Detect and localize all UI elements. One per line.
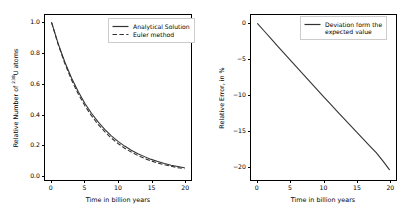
y-tick-mark	[248, 95, 250, 96]
x-axis-label-left: Time in billion years	[86, 196, 150, 204]
figure-canvas: 0.00.20.40.60.81.0 05101520 Time in bill…	[0, 0, 411, 214]
legend-item-deviation: Deviation form the expected value	[304, 21, 382, 36]
x-tick-mark	[185, 181, 186, 183]
legend-item-analytical-solution: Analytical Solution	[112, 23, 190, 31]
legend-right: Deviation form the expected value	[300, 16, 387, 40]
y-tick-label: 0.2	[18, 142, 40, 148]
y-tick-mark	[248, 59, 250, 60]
y-tick-mark	[248, 167, 250, 168]
x-tick-mark	[290, 181, 291, 183]
y-tick-mark	[42, 53, 44, 54]
isotope-mass-number: 238	[11, 75, 16, 83]
y-tick-mark	[248, 131, 250, 132]
y-tick-label: 0	[224, 20, 246, 26]
legend-label-deviation: Deviation form the expected value	[325, 21, 382, 36]
panel-relative-error: 0−5−10−15−20 05101520 Time in billion ye…	[205, 0, 410, 214]
legend-label-analytical-solution: Analytical Solution	[133, 23, 190, 31]
legend-swatch-solid-icon	[304, 21, 321, 28]
x-tick-mark	[152, 181, 153, 183]
x-tick-label: 15	[353, 185, 361, 191]
y-tick-label: 0.8	[18, 50, 40, 56]
y-tick-label: −10	[224, 92, 246, 98]
x-tick-mark	[357, 181, 358, 183]
y-axis-label-right: Relative Error, in %	[218, 67, 226, 128]
y-tick-label: 1.0	[18, 19, 40, 25]
x-tick-mark	[51, 181, 52, 183]
x-axis-label-right: Time in billion years	[291, 196, 355, 204]
y-tick-mark	[42, 145, 44, 146]
x-tick-mark	[324, 181, 325, 183]
legend-swatch-solid-icon	[112, 23, 129, 30]
x-tick-label: 20	[181, 185, 189, 191]
y-tick-mark	[42, 176, 44, 177]
x-tick-label: 10	[114, 185, 122, 191]
legend-left: Analytical Solution Euler method	[108, 18, 195, 43]
x-tick-mark	[390, 181, 391, 183]
x-tick-label: 10	[320, 185, 328, 191]
legend-item-euler-method: Euler method	[112, 31, 190, 39]
panel-decay-curves: 0.00.20.40.60.81.0 05101520 Time in bill…	[0, 0, 205, 214]
y-tick-mark	[42, 22, 44, 23]
y-tick-mark	[42, 84, 44, 85]
y-axis-label-left: Relative Number of 238U atoms	[12, 49, 20, 148]
legend-swatch-dashed-icon	[112, 31, 129, 38]
line-euler-method	[52, 23, 185, 169]
y-tick-label: −15	[224, 128, 246, 134]
x-tick-mark	[118, 181, 119, 183]
line-deviation-from-expected	[258, 24, 390, 170]
x-tick-mark	[257, 181, 258, 183]
x-tick-mark	[84, 181, 85, 183]
x-tick-label: 0	[255, 185, 259, 191]
y-tick-label: −5	[224, 56, 246, 62]
y-tick-mark	[248, 23, 250, 24]
y-tick-label: −20	[224, 163, 246, 169]
x-tick-label: 5	[82, 185, 86, 191]
x-tick-label: 5	[288, 185, 292, 191]
legend-label-euler-method: Euler method	[133, 31, 174, 39]
y-tick-label: 0.4	[18, 111, 40, 117]
x-tick-label: 20	[386, 185, 394, 191]
y-tick-label: 0.6	[18, 80, 40, 86]
y-tick-mark	[42, 115, 44, 116]
x-tick-label: 15	[148, 185, 156, 191]
line-analytical-solution	[52, 23, 185, 168]
x-tick-label: 0	[49, 185, 53, 191]
y-tick-label: 0.0	[18, 173, 40, 179]
